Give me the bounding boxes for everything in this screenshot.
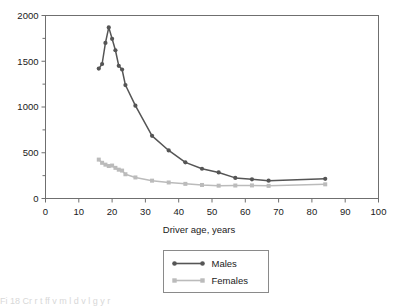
data-point — [233, 184, 237, 188]
data-point — [250, 177, 254, 181]
x-tick-label: 20 — [107, 206, 118, 217]
x-tick-label: 100 — [371, 206, 387, 217]
data-point — [117, 64, 121, 68]
data-point — [120, 67, 124, 71]
data-point — [120, 169, 124, 173]
data-point — [113, 48, 117, 52]
data-point — [123, 172, 127, 176]
data-point — [323, 182, 327, 186]
data-point — [100, 62, 104, 66]
data-point — [103, 41, 107, 45]
x-tick-label: 40 — [173, 206, 184, 217]
data-point — [267, 184, 271, 188]
data-point — [217, 170, 221, 174]
y-tick-label: 1000 — [17, 101, 38, 112]
chart-figure: 0500100015002000 0102030405060708090100 … — [0, 0, 400, 308]
x-tick-label: 10 — [74, 206, 85, 217]
x-axis-title: Driver age, years — [163, 224, 236, 235]
data-point — [200, 167, 204, 171]
data-point — [110, 37, 114, 41]
data-point — [217, 184, 221, 188]
legend-label: Females — [212, 275, 249, 286]
data-point — [150, 134, 154, 138]
data-point — [183, 182, 187, 186]
y-tick-label: 500 — [23, 147, 39, 158]
data-point — [107, 25, 111, 29]
x-tick-label: 0 — [43, 206, 48, 217]
y-tick-label: 2000 — [17, 10, 38, 21]
legend-marker — [172, 278, 176, 282]
legend-marker — [200, 278, 204, 282]
page-footer-artifact: Fi 18 Cr r t ff v m l d v l g y r — [0, 296, 400, 308]
x-tick-label: 90 — [340, 206, 351, 217]
data-point — [97, 66, 101, 70]
data-point — [150, 179, 154, 183]
data-point — [123, 83, 127, 87]
data-point — [233, 176, 237, 180]
x-tick-label: 80 — [307, 206, 318, 217]
data-point — [183, 160, 187, 164]
chart-legend: MalesFemales — [164, 251, 269, 293]
data-point — [167, 148, 171, 152]
y-tick-label: 1500 — [17, 56, 38, 67]
x-tick-label: 70 — [273, 206, 284, 217]
y-tick-label: 0 — [33, 193, 38, 204]
legend-marker — [172, 261, 177, 266]
legend-label: Males — [212, 258, 238, 269]
data-point — [200, 183, 204, 187]
data-point — [250, 183, 254, 187]
data-point — [167, 180, 171, 184]
data-point — [267, 179, 271, 183]
data-point — [323, 177, 327, 181]
legend-marker — [200, 261, 205, 266]
data-point — [133, 104, 137, 108]
line-chart: 0500100015002000 0102030405060708090100 … — [0, 0, 400, 308]
x-tick-label: 30 — [140, 206, 151, 217]
x-tick-label: 50 — [207, 206, 218, 217]
x-tick-label: 60 — [240, 206, 251, 217]
data-point — [133, 175, 137, 179]
